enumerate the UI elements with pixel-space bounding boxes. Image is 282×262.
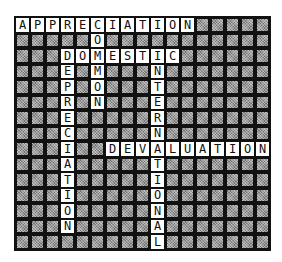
blocked-cell <box>90 126 105 142</box>
blocked-cell <box>75 141 90 157</box>
blocked-cell <box>120 172 135 188</box>
blocked-cell <box>210 188 225 204</box>
letter-cell[interactable]: T <box>135 48 150 64</box>
letter-cell[interactable]: O <box>60 203 75 219</box>
letter-cell[interactable]: E <box>105 48 120 64</box>
letter-cell[interactable]: C <box>60 126 75 142</box>
letter-cell[interactable]: T <box>210 141 225 157</box>
letter-cell[interactable]: E <box>60 64 75 80</box>
letter-cell[interactable]: N <box>180 17 195 33</box>
letter-cell[interactable]: A <box>120 17 135 33</box>
letter-cell[interactable]: U <box>180 141 195 157</box>
letter-cell[interactable]: R <box>60 95 75 111</box>
blocked-cell <box>165 110 180 126</box>
blocked-cell <box>225 234 240 250</box>
letter-cell[interactable]: I <box>60 141 75 157</box>
crossword-grid: APPRECIATIONODOMESTICEMNPOTRNEERCNIDEVAL… <box>14 16 271 251</box>
letter-cell[interactable]: N <box>150 126 165 142</box>
blocked-cell <box>210 17 225 33</box>
blocked-cell <box>195 79 210 95</box>
blocked-cell <box>225 219 240 235</box>
blocked-cell <box>45 172 60 188</box>
blocked-cell <box>135 33 150 49</box>
letter-cell[interactable]: T <box>150 79 165 95</box>
letter-cell[interactable]: O <box>150 188 165 204</box>
blocked-cell <box>15 64 30 80</box>
letter-cell[interactable]: N <box>255 141 270 157</box>
blocked-cell <box>240 110 255 126</box>
letter-cell[interactable]: I <box>60 188 75 204</box>
letter-cell[interactable]: L <box>165 141 180 157</box>
letter-cell[interactable]: C <box>165 48 180 64</box>
blocked-cell <box>255 188 270 204</box>
letter-cell[interactable]: T <box>135 17 150 33</box>
blocked-cell <box>210 234 225 250</box>
letter-cell[interactable]: A <box>15 17 30 33</box>
letter-cell[interactable]: A <box>60 157 75 173</box>
blocked-cell <box>255 172 270 188</box>
blocked-cell <box>45 141 60 157</box>
letter-cell[interactable]: R <box>60 17 75 33</box>
blocked-cell <box>30 219 45 235</box>
blocked-cell <box>240 64 255 80</box>
blocked-cell <box>30 157 45 173</box>
letter-cell[interactable]: C <box>90 17 105 33</box>
letter-cell[interactable]: L <box>150 234 165 250</box>
blocked-cell <box>75 110 90 126</box>
blocked-cell <box>180 48 195 64</box>
letter-cell[interactable]: N <box>150 64 165 80</box>
letter-cell[interactable]: N <box>60 219 75 235</box>
letter-cell[interactable]: N <box>90 95 105 111</box>
letter-cell[interactable]: E <box>150 95 165 111</box>
blocked-cell <box>75 203 90 219</box>
letter-cell[interactable]: V <box>135 141 150 157</box>
letter-cell[interactable]: I <box>150 48 165 64</box>
blocked-cell <box>195 17 210 33</box>
blocked-cell <box>180 219 195 235</box>
blocked-cell <box>105 64 120 80</box>
letter-cell[interactable]: A <box>150 141 165 157</box>
blocked-cell <box>60 33 75 49</box>
blocked-cell <box>195 33 210 49</box>
blocked-cell <box>225 48 240 64</box>
letter-cell[interactable]: M <box>90 48 105 64</box>
letter-cell[interactable]: O <box>75 48 90 64</box>
blocked-cell <box>120 203 135 219</box>
letter-cell[interactable]: I <box>105 17 120 33</box>
blocked-cell <box>45 157 60 173</box>
blocked-cell <box>165 33 180 49</box>
letter-cell[interactable]: O <box>165 17 180 33</box>
letter-cell[interactable]: D <box>105 141 120 157</box>
blocked-cell <box>120 219 135 235</box>
letter-cell[interactable]: A <box>195 141 210 157</box>
letter-cell[interactable]: R <box>150 110 165 126</box>
blocked-cell <box>240 172 255 188</box>
letter-cell[interactable]: O <box>90 79 105 95</box>
letter-cell[interactable]: E <box>75 17 90 33</box>
letter-cell[interactable]: P <box>60 79 75 95</box>
blocked-cell <box>105 33 120 49</box>
letter-cell[interactable]: E <box>60 110 75 126</box>
letter-cell[interactable]: D <box>60 48 75 64</box>
blocked-cell <box>165 157 180 173</box>
letter-cell[interactable]: N <box>150 203 165 219</box>
blocked-cell <box>90 234 105 250</box>
blocked-cell <box>255 79 270 95</box>
letter-cell[interactable]: I <box>150 17 165 33</box>
letter-cell[interactable]: O <box>240 141 255 157</box>
letter-cell[interactable]: S <box>120 48 135 64</box>
blocked-cell <box>75 188 90 204</box>
blocked-cell <box>240 79 255 95</box>
letter-cell[interactable]: T <box>150 157 165 173</box>
letter-cell[interactable]: O <box>90 33 105 49</box>
blocked-cell <box>105 110 120 126</box>
letter-cell[interactable]: P <box>30 17 45 33</box>
letter-cell[interactable]: T <box>60 172 75 188</box>
letter-cell[interactable]: A <box>150 219 165 235</box>
letter-cell[interactable]: P <box>45 17 60 33</box>
letter-cell[interactable]: E <box>120 141 135 157</box>
letter-cell[interactable]: I <box>225 141 240 157</box>
blocked-cell <box>210 219 225 235</box>
letter-cell[interactable]: M <box>90 64 105 80</box>
letter-cell[interactable]: I <box>150 172 165 188</box>
